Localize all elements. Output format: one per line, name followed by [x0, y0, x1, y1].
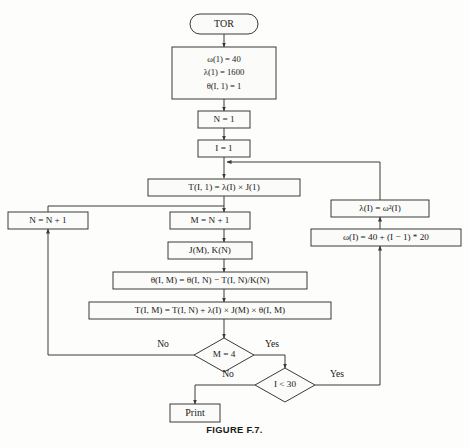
start-label: TOR: [214, 18, 234, 29]
figure-caption: FIGURE F.7.: [0, 424, 469, 435]
t-i-1-label: T(I, 1) = λ(I) × J(1): [188, 182, 259, 192]
node-decision-i[interactable]: I < 30: [255, 368, 315, 402]
node-start[interactable]: TOR: [190, 14, 258, 34]
node-init[interactable]: ω(1) = 40 λ(1) = 1600 θ(I, 1) = 1: [172, 47, 276, 99]
figure-container: TOR ω(1) = 40 λ(1) = 1600 θ(I, 1) = 1 N …: [0, 0, 469, 448]
edge-label-m-yes: Yes: [265, 338, 279, 349]
m-assign-label: M = N + 1: [191, 215, 230, 225]
edge-decision-i-no-to-print: [195, 385, 255, 404]
set-i-label: I = 1: [215, 143, 233, 153]
node-theta-update[interactable]: θ(I, M) = θ(I, N) − T(I, N)/K(N): [113, 272, 307, 289]
edge-decision-m-yes-to-decision-i: [254, 355, 285, 368]
node-t-update[interactable]: T(I, M) = T(I, N) + λ(I) × J(M) × θ(I, M…: [89, 302, 331, 319]
node-print[interactable]: Print: [170, 404, 220, 422]
omega-i-label: ω(I) = 40 + (I − 1) * 20: [343, 232, 429, 242]
jm-kn-label: J(M), K(N): [189, 245, 231, 255]
node-decision-m[interactable]: M = 4: [194, 338, 254, 372]
decision-m-label: M = 4: [213, 349, 236, 359]
edge-label-i-no: No: [222, 368, 234, 379]
node-m-assign[interactable]: M = N + 1: [170, 212, 250, 229]
print-label: Print: [185, 407, 205, 418]
node-set-i[interactable]: I = 1: [198, 140, 250, 157]
init-line-2: λ(1) = 1600: [204, 67, 245, 77]
node-t-i-1[interactable]: T(I, 1) = λ(I) × J(1): [148, 179, 300, 196]
node-jm-kn[interactable]: J(M), K(N): [168, 242, 252, 259]
node-n-increment[interactable]: N = N + 1: [8, 212, 88, 229]
edge-n-increment-to-m-assign: [48, 206, 224, 212]
init-line-1: ω(1) = 40: [207, 54, 240, 64]
t-update-label: T(I, M) = T(I, N) + λ(I) × J(M) × θ(I, M…: [135, 305, 285, 315]
set-n-label: N = 1: [213, 114, 234, 124]
n-increment-label: N = N + 1: [29, 215, 67, 225]
edge-label-m-no: No: [157, 338, 169, 349]
init-line-3: θ(I, 1) = 1: [207, 81, 242, 91]
node-lambda-i[interactable]: λ(I) = ω²(I): [331, 200, 429, 217]
lambda-i-label: λ(I) = ω²(I): [359, 203, 400, 213]
edge-label-i-yes: Yes: [330, 368, 344, 379]
flowchart-diagram: TOR ω(1) = 40 λ(1) = 1600 θ(I, 1) = 1 N …: [0, 0, 469, 448]
node-set-n[interactable]: N = 1: [198, 111, 250, 128]
decision-i-label: I < 30: [274, 379, 296, 389]
theta-update-label: θ(I, M) = θ(I, N) − T(I, N)/K(N): [151, 275, 270, 285]
node-omega-i[interactable]: ω(I) = 40 + (I − 1) * 20: [311, 229, 461, 246]
